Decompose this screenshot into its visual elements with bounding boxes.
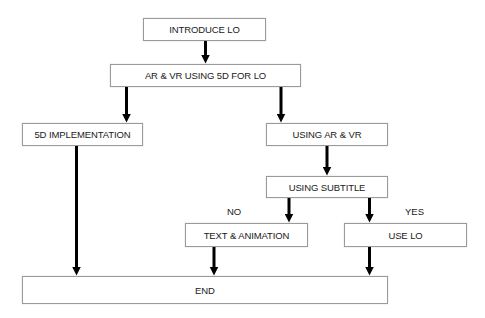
edge-label-no: NO [227,206,241,217]
node-using-subtitle: USING SUBTITLE [266,176,388,198]
node-label: USE LO [388,230,422,241]
node-5d-implementation: 5D IMPLEMENTATION [22,123,143,146]
node-label: END [195,285,215,296]
node-label: AR & VR USING 5D FOR LO [145,70,266,81]
node-label: INTRODUCE LO [169,24,240,35]
node-introduce-lo: INTRODUCE LO [143,18,266,41]
node-label: 5D IMPLEMENTATION [34,129,130,140]
node-label: USING AR & VR [293,129,362,140]
node-end: END [22,276,388,304]
node-label: USING SUBTITLE [289,182,366,193]
arrows-layer [0,0,485,318]
node-ar-vr-using-5d: AR & VR USING 5D FOR LO [110,64,301,87]
node-using-ar-vr: USING AR & VR [266,123,388,146]
node-use-lo: USE LO [344,223,467,247]
edge-label-yes: YES [405,206,424,217]
node-label: TEXT & ANIMATION [204,230,290,241]
node-text-animation: TEXT & ANIMATION [185,223,308,247]
